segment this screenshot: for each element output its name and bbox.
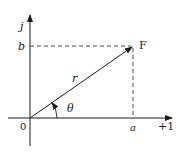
vector-r — [30, 47, 132, 118]
real-projection-label: a — [130, 122, 136, 133]
phasor-diagram: j b F r θ 0 a +1 — [0, 0, 189, 152]
angle-label: θ — [67, 102, 74, 115]
magnitude-label: r — [72, 72, 78, 85]
angle-arc — [52, 103, 57, 119]
origin-label: 0 — [20, 121, 26, 132]
imaginary-axis-label: j — [17, 20, 24, 33]
point-label: F — [139, 39, 147, 52]
imag-projection-label: b — [18, 40, 25, 53]
real-axis-label: +1 — [158, 120, 174, 133]
